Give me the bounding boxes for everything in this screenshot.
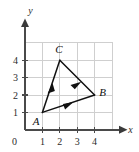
x-tick-label-1: 1 — [40, 136, 45, 147]
y-tick-label-1: 1 — [13, 107, 18, 118]
x-axis-label: x — [127, 124, 133, 135]
x-tick-label-2: 2 — [57, 136, 62, 147]
axis-names: x y — [27, 5, 133, 135]
direction-arrow-a-to-b — [63, 102, 74, 110]
y-tick-label-4: 4 — [13, 55, 18, 66]
x-tick-label-3: 3 — [75, 136, 80, 147]
y-axis-label: y — [27, 5, 33, 16]
origin-label: 0 — [12, 136, 17, 147]
y-tick-label-2: 2 — [13, 90, 18, 101]
x-axis-arrowhead — [119, 126, 128, 134]
y-tick-label-3: 3 — [13, 72, 18, 83]
x-tick-label-4: 4 — [92, 136, 97, 147]
vertex-label-c: C — [55, 43, 63, 55]
coordinate-plane-figure: 0 1 2 3 4 1 2 3 4 x y — [0, 0, 139, 152]
y-axis-arrowhead — [21, 19, 29, 28]
direction-arrow-c-to-b — [71, 82, 82, 90]
vertex-label-a: A — [32, 115, 40, 127]
vertex-label-b: B — [99, 86, 106, 98]
direction-arrows — [48, 82, 82, 110]
triangle-plot-svg: 0 1 2 3 4 1 2 3 4 x y — [0, 0, 139, 152]
